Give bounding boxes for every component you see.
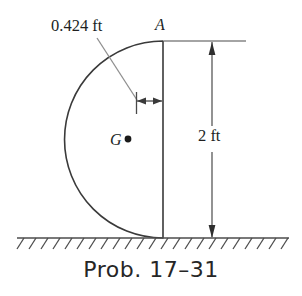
height-dimension-label: 2 ft — [198, 128, 220, 145]
center-of-gravity-label: G — [110, 132, 122, 148]
figure-drawing — [0, 0, 302, 296]
offset-arrowhead-right — [153, 98, 162, 105]
point-a-label: A — [155, 17, 165, 33]
offset-arrowhead-left — [137, 98, 146, 105]
offset-dimension-label: 0.424 ft — [51, 18, 102, 35]
figure-container: 0.424 ft A G 2 ft Prob. 17–31 — [0, 0, 302, 296]
center-of-gravity-dot — [125, 136, 132, 143]
figure-caption: Prob. 17–31 — [0, 257, 302, 282]
offset-leader-line — [97, 38, 137, 100]
ground-hatching — [17, 238, 288, 249]
height-arrowhead-bottom — [209, 225, 216, 238]
height-arrowhead-top — [209, 42, 216, 55]
